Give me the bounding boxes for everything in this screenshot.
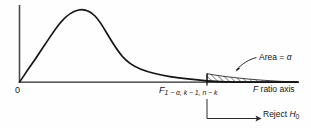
critical-value-label: F1 − α, k − 1, n − k	[159, 86, 217, 95]
area-annotation-prefix: Area =	[259, 52, 287, 62]
reject-connector	[207, 99, 262, 121]
area-annotation: Area = α	[259, 53, 292, 62]
critical-value-subscript: 1 − α, k − 1, n − k	[165, 89, 218, 96]
x-axis-title: F ratio axis	[253, 85, 295, 94]
null-hypothesis-symbol: H	[289, 109, 295, 119]
alpha-symbol: α	[287, 52, 292, 62]
origin-label: 0	[15, 86, 20, 95]
f-distribution-curve	[20, 10, 299, 82]
null-hypothesis-subscript: 0	[296, 113, 300, 120]
critical-value-symbol: F	[159, 85, 165, 95]
x-axis-title-text: ratio axis	[258, 84, 294, 94]
area-leader-line	[236, 58, 257, 72]
reject-label-prefix: Reject	[263, 109, 289, 119]
f-distribution-figure: 0 Area = α F ratio axis F1 − α, k − 1, n…	[0, 0, 311, 128]
reject-label: Reject H0	[263, 110, 299, 119]
